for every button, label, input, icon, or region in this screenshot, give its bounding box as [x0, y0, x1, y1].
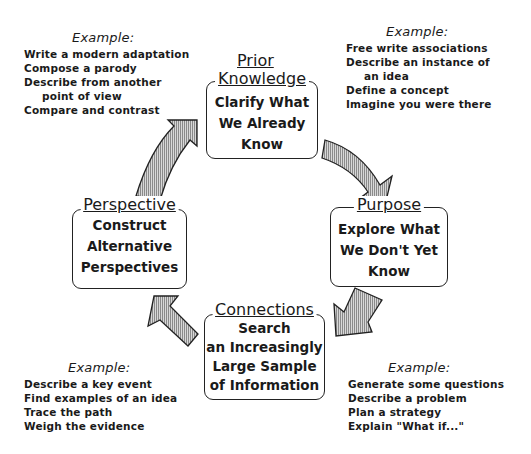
stage-body-line: Alternative: [73, 236, 186, 257]
stage-title: Connections: [212, 301, 317, 319]
example-item: Trace the path: [24, 405, 177, 419]
stage-body-line: Construct: [73, 215, 186, 236]
stage-title: Prior: [237, 51, 274, 70]
example-item: Plan a strategy: [348, 405, 504, 419]
example-top-right: Example: Free write associations Describ…: [346, 24, 492, 111]
example-item: Weigh the evidence: [24, 419, 177, 433]
example-item: Write a modern adaptation: [24, 47, 189, 61]
arrow-perspective-to-prior: [136, 120, 197, 200]
stage-body-line: Know: [331, 261, 447, 282]
stage-body-line: Large Sample: [205, 357, 324, 376]
stage-body-line: Perspectives: [73, 257, 186, 278]
example-item: Describe an instance of: [346, 55, 492, 69]
stage-body-line: Clarify What: [207, 92, 317, 113]
stage-body-line: Know: [207, 134, 317, 155]
stage-body-line: of Information: [205, 376, 324, 395]
stage-body-line: an Increasingly: [205, 338, 324, 357]
stage-title: Purpose: [354, 196, 424, 214]
stage-prior-knowledge: Knowledge Clarify What We Already Know: [206, 81, 318, 159]
stage-title: Knowledge: [215, 70, 309, 88]
example-item: Describe a problem: [348, 391, 504, 405]
example-item: Explain "What if...": [348, 419, 504, 433]
example-heading: Example:: [348, 360, 504, 376]
example-item: Free write associations: [346, 41, 492, 55]
stage-perspective: Perspective Construct Alternative Perspe…: [72, 209, 187, 289]
example-heading: Example:: [24, 360, 177, 376]
stage-body-line: We Don't Yet: [331, 240, 447, 261]
stage-title: Perspective: [80, 196, 179, 214]
stage-purpose: Purpose Explore What We Don't Yet Know: [330, 207, 448, 287]
stage-prior-knowledge-heading: Prior: [237, 52, 274, 70]
example-item: Compose a parody: [24, 61, 189, 75]
example-heading: Example:: [24, 30, 189, 46]
example-item: Find examples of an idea: [24, 391, 177, 405]
example-item: an idea: [346, 69, 492, 83]
stage-connections: Connections Search an Increasingly Large…: [204, 314, 325, 400]
arrow-purpose-to-connections: [334, 288, 382, 336]
stage-body-line: Search: [205, 319, 324, 338]
example-item: Describe from another: [24, 75, 189, 89]
example-item: Generate some questions: [348, 377, 504, 391]
example-top-left: Example: Write a modern adaptation Compo…: [24, 30, 189, 117]
stage-body-line: Explore What: [331, 219, 447, 240]
example-item: Define a concept: [346, 83, 492, 97]
stage-body-line: We Already: [207, 113, 317, 134]
example-bottom-left: Example: Describe a key event Find examp…: [24, 360, 177, 433]
example-heading: Example:: [346, 24, 492, 40]
arrow-connections-to-perspective: [148, 296, 198, 346]
example-item: Compare and contrast: [24, 103, 189, 117]
example-item: Describe a key event: [24, 377, 177, 391]
example-bottom-right: Example: Generate some questions Describ…: [348, 360, 504, 433]
example-item: point of view: [24, 89, 189, 103]
example-item: Imagine you were there: [346, 97, 492, 111]
